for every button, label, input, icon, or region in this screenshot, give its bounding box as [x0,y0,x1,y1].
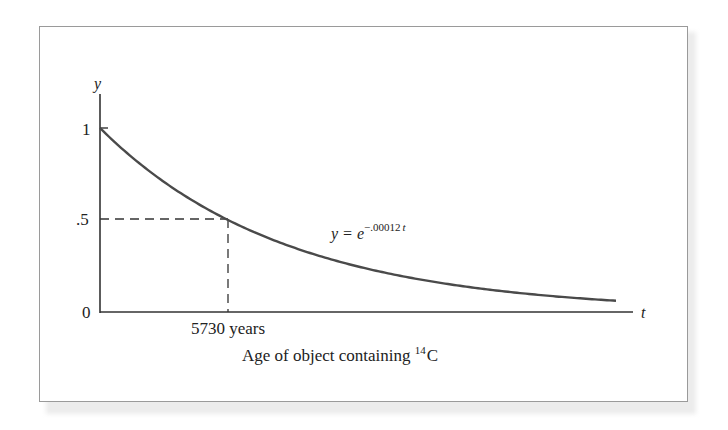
chart-svg: y t 1 .5 0 5730 years y = e−.00012t Age … [0,0,728,430]
equation-label: y = e−.00012t [329,221,406,243]
equation-exponent: −.00012 [364,221,400,233]
decay-curve [100,128,616,301]
y-tick-label-half: .5 [76,210,89,229]
equation-base: e [357,225,364,242]
equation-lhs: y = [329,225,357,243]
x-axis-title-main: Age of object containing [242,346,415,365]
y-tick-label-1: 1 [82,120,91,139]
x-axis-title: Age of object containing 14C [242,344,438,365]
t-axis-label: t [641,304,646,321]
x-axis-title-sup: 14 [415,344,427,356]
x-axis-title-elem: C [427,346,438,365]
equation-exponent-var: t [402,221,406,233]
y-tick-label-0: 0 [82,303,91,322]
y-axis-label: y [92,75,102,93]
half-life-label: 5730 years [191,319,265,338]
